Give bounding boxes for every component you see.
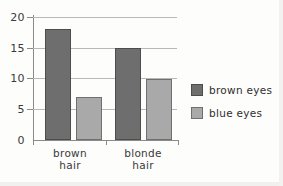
legend-item-blue-eyes: blue eyes xyxy=(191,106,272,120)
gridline-20 xyxy=(33,17,177,18)
x-category-blonde-hair-line1: blonde xyxy=(107,147,179,159)
x-category-blonde-hair-line2: hair xyxy=(107,159,179,171)
chart-legend: brown eyes blue eyes xyxy=(191,83,272,129)
y-tick-label-15: 15 xyxy=(10,42,25,55)
x-tick-sep-left xyxy=(33,140,34,145)
page-edge-right xyxy=(279,0,283,186)
bar-blonde-hair-brown-eyes xyxy=(115,48,141,140)
x-category-brown-hair-line2: hair xyxy=(34,159,106,171)
plot-area xyxy=(33,17,177,140)
y-tick-label-20: 20 xyxy=(10,11,25,24)
bar-blonde-hair-blue-eyes xyxy=(146,79,172,140)
page-edge-bottom xyxy=(0,182,283,186)
x-category-brown-hair-line1: brown xyxy=(34,147,106,159)
legend-swatch-blue-eyes xyxy=(191,107,203,119)
y-tick-label-0: 0 xyxy=(18,134,25,147)
bar-chart-figure: 20 15 10 5 0 brown hair blonde hair xyxy=(0,0,283,186)
x-category-brown-hair: brown hair xyxy=(34,147,106,171)
y-tick-label-5: 5 xyxy=(18,103,25,116)
x-category-blonde-hair: blonde hair xyxy=(107,147,179,171)
legend-label-brown-eyes: brown eyes xyxy=(209,84,272,96)
bar-brown-hair-blue-eyes xyxy=(76,97,102,140)
legend-label-blue-eyes: blue eyes xyxy=(209,107,262,119)
bar-brown-hair-brown-eyes xyxy=(45,29,71,140)
x-tick-sep-middle xyxy=(106,140,107,145)
legend-swatch-brown-eyes xyxy=(191,84,203,96)
x-tick-sep-right xyxy=(178,140,179,145)
y-tick-label-10: 10 xyxy=(10,72,25,85)
legend-item-brown-eyes: brown eyes xyxy=(191,83,272,97)
